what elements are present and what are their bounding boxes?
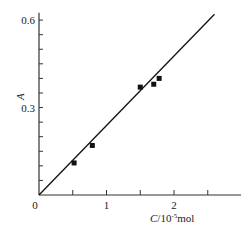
data-points [72,76,162,166]
x-tick-label: 0 [32,199,38,211]
x-tick-label: 2 [171,199,177,211]
x-axis-label: C/10-5mol [150,212,194,224]
axes [39,13,241,195]
y-tick-label: 0.6 [21,14,35,26]
data-point [90,143,95,148]
data-point [72,160,77,165]
x-tick-label: 1 [104,199,110,211]
data-point [151,82,156,87]
ticks: 0120.30.6 [21,14,208,211]
fit-line [39,14,215,195]
data-point [138,85,143,90]
y-axis-label: A [14,93,26,101]
chart: 0120.30.6 A C/10-5mol [0,0,241,233]
fit-line-segment [39,14,215,195]
y-tick-label: 0.3 [21,102,35,114]
data-point [157,76,162,81]
